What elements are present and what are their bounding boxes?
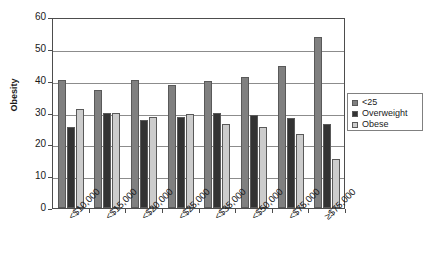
y-tick-label: 30 — [16, 108, 46, 118]
plot-area — [52, 18, 345, 209]
bar — [250, 115, 258, 208]
legend-label: Obese — [362, 119, 389, 130]
bar-group — [241, 19, 268, 208]
bar-group — [278, 19, 305, 208]
x-tick-mark — [272, 209, 273, 213]
y-tick-label: 40 — [16, 76, 46, 86]
legend-swatch-icon — [352, 122, 358, 128]
bar — [67, 127, 75, 208]
bar — [213, 113, 221, 208]
y-tick-mark — [48, 18, 52, 19]
bar — [76, 109, 84, 208]
x-tick-mark — [162, 209, 163, 213]
y-tick-mark — [48, 82, 52, 83]
obesity-by-income-bar-chart: Obesity 0102030405060 <$10,000<$15,000<$… — [0, 0, 424, 271]
bar-group — [314, 19, 341, 208]
x-tick-mark — [345, 209, 346, 213]
bar — [186, 114, 194, 208]
bar — [314, 37, 322, 208]
bar — [103, 113, 111, 208]
y-tick-mark — [48, 177, 52, 178]
y-tick-label: 10 — [16, 171, 46, 181]
y-tick-mark — [48, 209, 52, 210]
legend-item: Obese — [352, 119, 422, 130]
y-tick-mark — [48, 50, 52, 51]
legend-swatch-icon — [352, 100, 358, 106]
bar-group — [168, 19, 195, 208]
legend-label: Overweight — [362, 108, 408, 119]
x-tick-mark — [89, 209, 90, 213]
legend: <25OverweightObese — [347, 93, 423, 131]
x-tick-mark — [308, 209, 309, 213]
x-tick-mark — [235, 209, 236, 213]
y-tick-label: 0 — [16, 203, 46, 213]
legend-item: <25 — [352, 97, 422, 108]
y-tick-label: 60 — [16, 12, 46, 22]
bar-group — [94, 19, 121, 208]
bar — [177, 117, 185, 208]
x-tick-mark — [199, 209, 200, 213]
y-tick-mark — [48, 114, 52, 115]
y-tick-mark — [48, 145, 52, 146]
bar — [287, 118, 295, 208]
bar-group — [204, 19, 231, 208]
legend-label: <25 — [362, 97, 377, 108]
bar-group — [131, 19, 158, 208]
bar — [323, 124, 331, 208]
legend-swatch-icon — [352, 111, 358, 117]
bar — [149, 117, 157, 208]
bars-layer — [53, 19, 344, 208]
y-tick-label: 20 — [16, 139, 46, 149]
bar — [58, 80, 66, 208]
x-tick-mark — [125, 209, 126, 213]
bar — [140, 120, 148, 208]
legend-item: Overweight — [352, 108, 422, 119]
y-tick-label: 50 — [16, 44, 46, 54]
bar-group — [58, 19, 85, 208]
bar — [112, 113, 120, 209]
